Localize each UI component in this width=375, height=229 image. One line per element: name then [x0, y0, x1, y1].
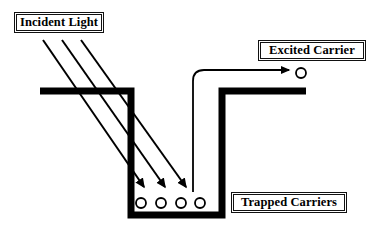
- trapped-carrier-circle: [156, 198, 166, 208]
- trapped-carrier-circles: [136, 198, 205, 208]
- excited-carrier-label: Excited Carrier: [260, 42, 364, 59]
- diagram-canvas: Incident Light Excited Carrier Trapped C…: [0, 0, 375, 229]
- trapped-carriers-label-box: Trapped Carriers: [231, 192, 347, 213]
- trapped-carrier-circle: [136, 198, 146, 208]
- excited-carrier-circle: [296, 68, 306, 78]
- trapped-carriers-label: Trapped Carriers: [233, 194, 345, 211]
- incident-light-label-box: Incident Light: [14, 12, 104, 33]
- excited-carrier-label-box: Excited Carrier: [258, 40, 366, 61]
- trapped-carrier-circle: [195, 198, 205, 208]
- incident-light-label: Incident Light: [16, 14, 102, 31]
- incident-light-rays: [43, 40, 186, 187]
- incident-ray-2: [62, 40, 165, 187]
- trapped-carrier-circle: [176, 198, 186, 208]
